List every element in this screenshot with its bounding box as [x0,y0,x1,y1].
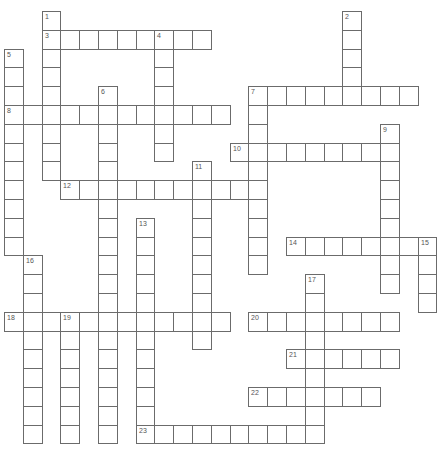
crossword-cell[interactable]: 4 [154,30,174,50]
crossword-cell[interactable] [154,312,174,332]
crossword-cell[interactable] [361,143,381,162]
crossword-cell[interactable] [305,349,325,369]
crossword-cell[interactable] [324,387,343,407]
crossword-cell[interactable] [98,312,118,332]
crossword-cell[interactable] [380,86,400,106]
crossword-cell[interactable]: 8 [4,105,24,125]
crossword-cell[interactable] [192,105,212,125]
crossword-cell[interactable]: 2 [342,11,362,31]
crossword-cell[interactable] [211,180,231,200]
crossword-cell[interactable]: 23 [136,425,155,444]
crossword-cell[interactable] [248,237,268,256]
crossword-cell[interactable] [154,67,174,87]
crossword-cell[interactable] [79,105,99,125]
crossword-cell[interactable] [117,105,137,125]
crossword-cell[interactable] [342,67,362,87]
crossword-cell[interactable] [305,143,325,162]
crossword-cell[interactable]: 6 [98,86,118,106]
crossword-cell[interactable]: 9 [380,124,400,144]
crossword-cell[interactable]: 19 [60,312,80,332]
crossword-cell[interactable] [23,331,43,350]
crossword-cell[interactable] [42,124,61,144]
crossword-cell[interactable] [380,199,400,219]
crossword-cell[interactable] [154,86,174,106]
crossword-cell[interactable] [98,274,118,294]
crossword-cell[interactable] [60,349,80,369]
crossword-cell[interactable] [305,293,325,313]
crossword-cell[interactable] [380,143,400,162]
crossword-cell[interactable] [42,143,61,162]
crossword-cell[interactable] [192,30,212,50]
crossword-cell[interactable] [342,30,362,50]
crossword-cell[interactable] [267,143,287,162]
crossword-cell[interactable] [4,143,24,162]
crossword-cell[interactable] [192,425,212,444]
crossword-cell[interactable] [42,67,61,87]
crossword-cell[interactable] [60,425,80,444]
crossword-cell[interactable] [192,255,212,275]
crossword-cell[interactable] [98,387,118,407]
crossword-cell[interactable]: 22 [248,387,268,407]
crossword-cell[interactable] [173,180,193,200]
crossword-cell[interactable] [60,30,80,50]
crossword-cell[interactable] [136,180,155,200]
crossword-cell[interactable] [380,180,400,200]
crossword-cell[interactable] [267,86,287,106]
crossword-cell[interactable] [324,312,343,332]
crossword-cell[interactable] [173,312,193,332]
crossword-cell[interactable] [42,105,61,125]
crossword-cell[interactable] [380,274,400,294]
crossword-cell[interactable]: 16 [23,255,43,275]
crossword-cell[interactable] [98,349,118,369]
crossword-cell[interactable] [380,255,400,275]
crossword-cell[interactable] [267,425,287,444]
crossword-cell[interactable] [361,86,381,106]
crossword-cell[interactable] [42,86,61,106]
crossword-cell[interactable] [136,293,155,313]
crossword-cell[interactable] [418,274,437,294]
crossword-cell[interactable] [98,368,118,388]
crossword-cell[interactable] [192,180,212,200]
crossword-cell[interactable] [98,331,118,350]
crossword-cell[interactable] [79,30,99,50]
crossword-cell[interactable] [305,237,325,256]
crossword-cell[interactable] [136,368,155,388]
crossword-cell[interactable] [248,124,268,144]
crossword-cell[interactable] [23,387,43,407]
crossword-cell[interactable]: 14 [286,237,306,256]
crossword-cell[interactable] [248,218,268,238]
crossword-cell[interactable] [60,406,80,426]
crossword-cell[interactable] [4,199,24,219]
crossword-cell[interactable] [248,255,268,275]
crossword-cell[interactable] [23,368,43,388]
crossword-cell[interactable] [4,67,24,87]
crossword-cell[interactable] [324,86,343,106]
crossword-cell[interactable] [211,105,231,125]
crossword-cell[interactable] [286,86,306,106]
crossword-cell[interactable]: 1 [42,11,61,31]
crossword-cell[interactable] [117,30,137,50]
crossword-cell[interactable] [154,124,174,144]
crossword-cell[interactable] [342,143,362,162]
crossword-cell[interactable] [136,105,155,125]
crossword-cell[interactable] [305,331,325,350]
crossword-cell[interactable] [305,86,325,106]
crossword-cell[interactable]: 7 [248,86,268,106]
crossword-cell[interactable] [192,237,212,256]
crossword-cell[interactable] [136,237,155,256]
crossword-cell[interactable] [248,105,268,125]
crossword-cell[interactable] [211,312,231,332]
crossword-cell[interactable] [60,368,80,388]
crossword-cell[interactable]: 10 [230,143,249,162]
crossword-cell[interactable] [98,237,118,256]
crossword-cell[interactable]: 5 [4,49,24,68]
crossword-cell[interactable] [154,143,174,162]
crossword-cell[interactable] [136,255,155,275]
crossword-cell[interactable] [173,425,193,444]
crossword-cell[interactable]: 12 [60,180,80,200]
crossword-cell[interactable] [380,218,400,238]
crossword-cell[interactable] [79,180,99,200]
crossword-cell[interactable] [98,124,118,144]
crossword-cell[interactable] [324,237,343,256]
crossword-cell[interactable] [23,293,43,313]
